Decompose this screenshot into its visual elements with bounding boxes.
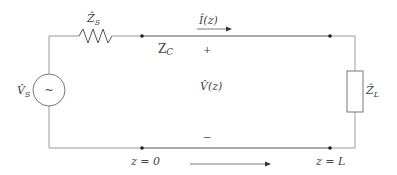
node-bottom-right <box>328 146 332 150</box>
source-tilde-icon: ~ <box>44 84 53 97</box>
load-impedance <box>347 71 363 112</box>
current-arrow-icon <box>197 27 232 32</box>
transmission-line-circuit: ~ ẐS ZC Î(z) + V̂(z) − V̂S ẐL z = 0 z = … <box>0 0 397 175</box>
voltage-minus-sign: − <box>203 132 211 143</box>
position-end-label: z = L <box>315 155 345 168</box>
load-impedance-label: ẐL <box>365 83 379 99</box>
position-start-label: z = 0 <box>130 155 160 168</box>
propagation-arrow-icon <box>190 162 271 167</box>
node-top-left <box>140 34 144 38</box>
source-voltage-label: V̂S <box>17 84 31 99</box>
node-top-right <box>328 34 332 38</box>
source-impedance-resistor <box>79 29 112 43</box>
source-impedance-label: ẐS <box>86 11 101 27</box>
current-label: Î(z) <box>198 13 218 27</box>
voltage-label: V̂(z) <box>200 80 222 93</box>
voltage-plus-sign: + <box>203 44 211 55</box>
node-bottom-left <box>140 146 144 150</box>
line-impedance-label: ZC <box>158 42 173 57</box>
